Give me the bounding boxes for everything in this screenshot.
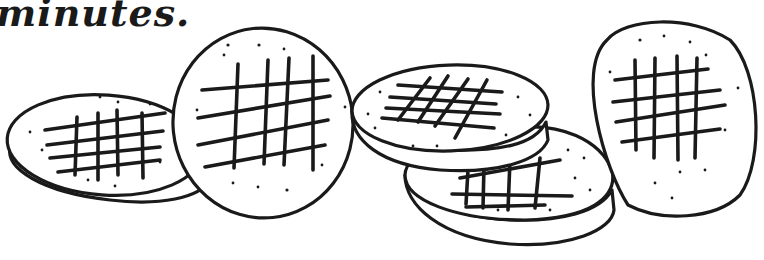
cookie-2: [164, 19, 363, 227]
cookie-3: [351, 62, 550, 171]
cookie-5: [593, 22, 756, 216]
cookies-illustration: [0, 0, 764, 260]
